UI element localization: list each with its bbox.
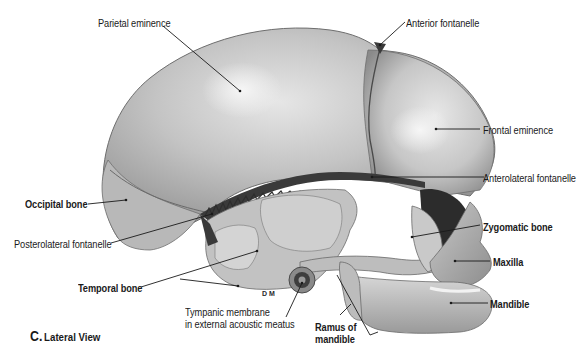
- caption-letter: C.: [30, 328, 42, 344]
- label-anterolateral-fontanelle: Anterolateral fontanelle: [483, 172, 576, 184]
- label-ramus-line1: Ramus of: [315, 321, 356, 333]
- caption-text: Lateral View: [44, 331, 100, 343]
- ramus-of-mandible: [339, 262, 362, 320]
- svg-text:D M: D M: [262, 290, 275, 297]
- label-mandible: Mandible: [490, 298, 529, 310]
- mandible: [350, 276, 492, 333]
- label-ramus-line2: mandible: [315, 333, 356, 345]
- label-ramus-of-mandible: Ramus of mandible: [315, 321, 356, 345]
- figure-caption: C.Lateral View: [30, 327, 100, 345]
- label-maxilla: Maxilla: [493, 256, 523, 268]
- label-anterior-fontanelle: Anterior fontanelle: [406, 17, 479, 29]
- label-tympanic-membrane-line1: Tympanic membrane: [185, 306, 295, 318]
- label-parietal-eminence: Parietal eminence: [98, 17, 170, 29]
- label-zygomatic-bone: Zygomatic bone: [483, 221, 553, 233]
- label-tympanic-membrane-line2: in external acoustic meatus: [185, 318, 295, 330]
- label-occipital-bone: Occipital bone: [25, 198, 87, 210]
- label-temporal-bone: Temporal bone: [78, 282, 142, 294]
- label-tympanic-membrane: Tympanic membrane in external acoustic m…: [185, 306, 295, 330]
- label-posterolateral-fontanelle: Posterolateral fontanelle: [14, 238, 111, 250]
- label-frontal-eminence: Frontal eminence: [483, 124, 553, 136]
